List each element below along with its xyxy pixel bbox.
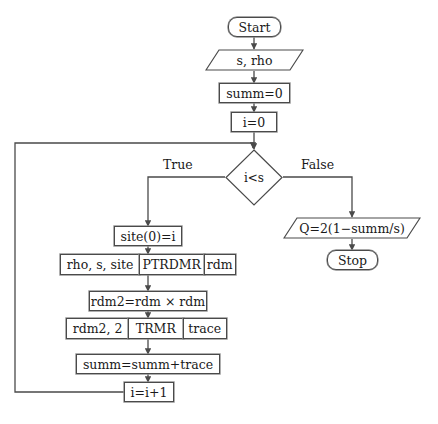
node-output-label: Q=2(1−summ/s) [299,221,405,236]
node-accumulate: summ=summ+trace [76,354,220,374]
node-input-label: s, rho [237,53,273,68]
node-input: s, rho [205,49,304,71]
flowchart-canvas: Start s, rho summ=0 i=0 i<s True False s… [0,0,438,424]
node-increment: i=i+1 [124,382,174,402]
node-site: site(0)=i [114,226,182,246]
node-accumulate-label: summ=summ+trace [83,357,213,372]
node-output: Q=2(1−summ/s) [283,217,421,239]
node-ptrdmr-outputs-label: rdm [207,257,233,272]
edge-false-to-output [283,177,352,217]
node-trmr-inputs: rdm2, 2 [66,318,129,339]
node-init-i: i=0 [231,112,277,132]
node-trmr-name: TRMR [128,318,184,339]
node-ptrdmr-outputs: rdm [204,254,236,275]
node-trmr-outputs-label: trace [188,321,221,336]
node-init-summ: summ=0 [219,83,290,103]
node-start-label: Start [238,20,270,35]
node-increment-label: i=i+1 [131,385,168,400]
node-trmr: rdm2, 2 TRMR trace [66,318,227,339]
node-ptrdmr-inputs: rho, s, site [60,254,140,275]
node-decision-label: i<s [244,171,264,185]
node-site-label: site(0)=i [120,229,175,244]
node-trmr-outputs: trace [183,318,227,339]
node-rdm2: rdm2=rdm × rdm [89,291,207,311]
edge-label-false-text: False [301,157,334,172]
edge-label-true: True [163,157,193,172]
edge-label-false: False [301,157,334,172]
node-init-i-label: i=0 [243,115,265,130]
node-start: Start [228,17,281,37]
node-ptrdmr-inputs-label: rho, s, site [67,257,134,272]
node-trmr-name-label: TRMR [136,321,176,336]
node-rdm2-label: rdm2=rdm × rdm [91,294,205,309]
edge-label-true-text: True [163,157,193,172]
node-ptrdmr: rho, s, site PTRDMR rdm [60,254,236,275]
node-init-summ-label: summ=0 [226,86,283,101]
node-ptrdmr-name: PTRDMR [139,254,205,275]
node-ptrdmr-name-label: PTRDMR [143,257,201,272]
node-decision: i<s [225,149,283,206]
node-stop-label: Stop [338,253,367,268]
node-trmr-inputs-label: rdm2, 2 [73,321,123,336]
edge-true-to-site [148,177,225,226]
node-stop: Stop [327,250,378,270]
